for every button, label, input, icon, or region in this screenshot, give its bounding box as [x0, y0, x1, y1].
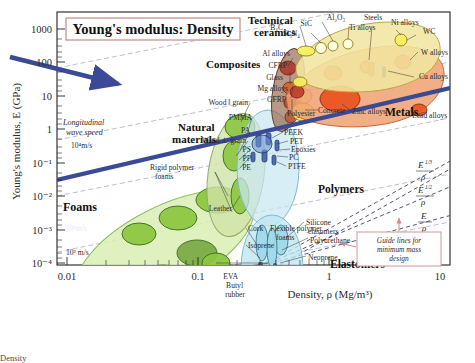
heading-polymers: Polymers	[318, 183, 365, 196]
ratio-e13-den: ρ	[420, 172, 426, 182]
bar-ptfe	[272, 155, 276, 165]
ws-1e2: 10² m/s	[66, 248, 89, 257]
label-b4c: B₄C	[270, 23, 283, 32]
y-tick-1e-4: 10⁻⁴	[32, 258, 53, 269]
label-cork: Cork	[248, 224, 263, 233]
bubble-sic	[328, 41, 338, 51]
label-cu-alloys: Cu alloys	[419, 72, 448, 81]
label-silicone-l1: Silicone	[306, 218, 332, 227]
ashby-chart-svg: 1000 100 10 1 10⁻¹ 10⁻² 10⁻³ 10⁻⁴ 0.01 0…	[0, 0, 475, 363]
y-tick-1000: 1000	[31, 24, 52, 35]
bubble-rigid-foam-2	[159, 206, 197, 230]
x-tick-10: 10	[435, 271, 446, 282]
y-tick-100: 100	[36, 57, 52, 68]
wave-speed-annotations: Longitudinal wave speed	[62, 118, 105, 137]
guide-box-l3: design	[389, 254, 409, 263]
bubble-polymer-core	[252, 135, 272, 153]
ratio-e13-num: E	[417, 160, 424, 170]
ratio-e1-num: E	[420, 211, 427, 221]
label-eva: EVA	[223, 272, 238, 281]
label-gfrp: GFRP	[267, 95, 286, 104]
x-tick-0-01: 0.01	[58, 271, 76, 282]
ratio-e12-den: ρ	[420, 197, 426, 207]
ws-1e3: 10³m/s	[66, 224, 87, 233]
label-flex-foams-l2: foams	[276, 233, 295, 242]
bubble-rigid-foam-3	[122, 223, 156, 245]
heading-foams: Foams	[63, 200, 97, 214]
label-mg-alloys: Mg alloys	[257, 84, 288, 93]
label-wood-par: Wood ‖ grain	[209, 98, 249, 107]
guide-box-l1: Guide lines for	[377, 236, 421, 245]
ratio-e13-exp: 1/3	[425, 159, 432, 165]
ws-title-l2: wave speed	[66, 128, 104, 137]
x-tick-0-1: 0.1	[191, 271, 204, 282]
label-leather: Leather	[209, 204, 233, 213]
bar-epoxies	[275, 140, 279, 151]
label-si3n4: Si₃N₄	[283, 29, 300, 38]
chart-title: Young's modulus: Density	[72, 21, 234, 37]
ws-title-l1: Longitudinal	[62, 118, 105, 127]
chart-figure: 1000 100 10 1 10⁻¹ 10⁻² 10⁻³ 10⁻⁴ 0.01 0…	[0, 0, 475, 363]
label-ni-alloys: Ni alloys	[391, 18, 419, 27]
x-tick-1: 1	[326, 271, 331, 282]
guide-box-l2: minimum mass	[377, 245, 421, 254]
label-pe: PE	[242, 163, 251, 172]
label-ps: PS	[243, 145, 251, 154]
label-concrete: Concrete	[318, 106, 346, 115]
label-neoprene: Neoprene	[308, 253, 338, 262]
label-al2o3: Al₂O₃	[327, 13, 346, 22]
ratio-e12-exp: 1/2	[425, 184, 432, 190]
label-al-alloys: Al alloys	[262, 49, 290, 58]
label-lead-alloys: Lead alloys	[412, 111, 447, 120]
label-ptfe: PTFE	[288, 162, 306, 171]
label-pmma: PMMA	[229, 113, 253, 122]
bubble-wc	[395, 34, 407, 46]
label-rigid-foams-l2: foams	[155, 172, 174, 181]
bubble-ceramic-low	[293, 77, 307, 87]
y-tick-1e-2: 10⁻²	[32, 191, 52, 202]
figure-caption: Density	[0, 353, 475, 363]
label-glass: Glass	[266, 73, 283, 82]
label-pc: PC	[289, 153, 298, 162]
label-w-alloys: W alloys	[421, 48, 448, 57]
label-silicone-l2: elasomers	[308, 227, 338, 236]
ratio-e12-num: E	[417, 185, 424, 195]
label-butyl-l1: Butyl	[226, 281, 243, 290]
bubble-si3n4	[316, 43, 327, 54]
bubble-b4c	[297, 46, 315, 56]
y-tick-10: 10	[42, 91, 53, 102]
label-rigid-foams-l1: Rigid polymer	[150, 163, 195, 172]
y-tick-1e-3: 10⁻³	[32, 225, 52, 236]
label-pp: PP	[243, 154, 251, 163]
label-isoprene: Isoprene	[248, 241, 275, 250]
y-tick-1: 1	[47, 124, 52, 135]
label-ti-alloys: Ti alloys	[349, 23, 376, 32]
x-axis-title: Density, ρ (Mg/m³)	[288, 288, 373, 301]
label-polyester-leader: Polyester	[287, 109, 316, 118]
ws-1e4: 10⁴m/s	[71, 141, 92, 150]
heading-composites: Composites	[206, 58, 261, 70]
label-wood-perp: Wood ⊥ grain	[202, 136, 247, 145]
heading-natural-l1: Natural	[178, 121, 215, 133]
label-butyl-l2: rubber	[225, 290, 245, 299]
label-zinc-alloys: Zinc alloys	[352, 107, 386, 116]
label-sic: SiC	[301, 19, 312, 28]
label-wc: WC	[423, 27, 435, 36]
y-axis-title: Young's modulus, E (GPa)	[10, 83, 23, 200]
label-pa: PA	[241, 126, 251, 135]
label-cfrp: CFRP	[268, 61, 287, 70]
bar-pmma	[251, 152, 255, 162]
bubble-al2o3	[343, 39, 353, 49]
y-tick-1e-1: 10⁻¹	[32, 158, 52, 169]
label-steels: Steels	[364, 13, 382, 22]
label-peek: PEEK	[284, 128, 304, 137]
